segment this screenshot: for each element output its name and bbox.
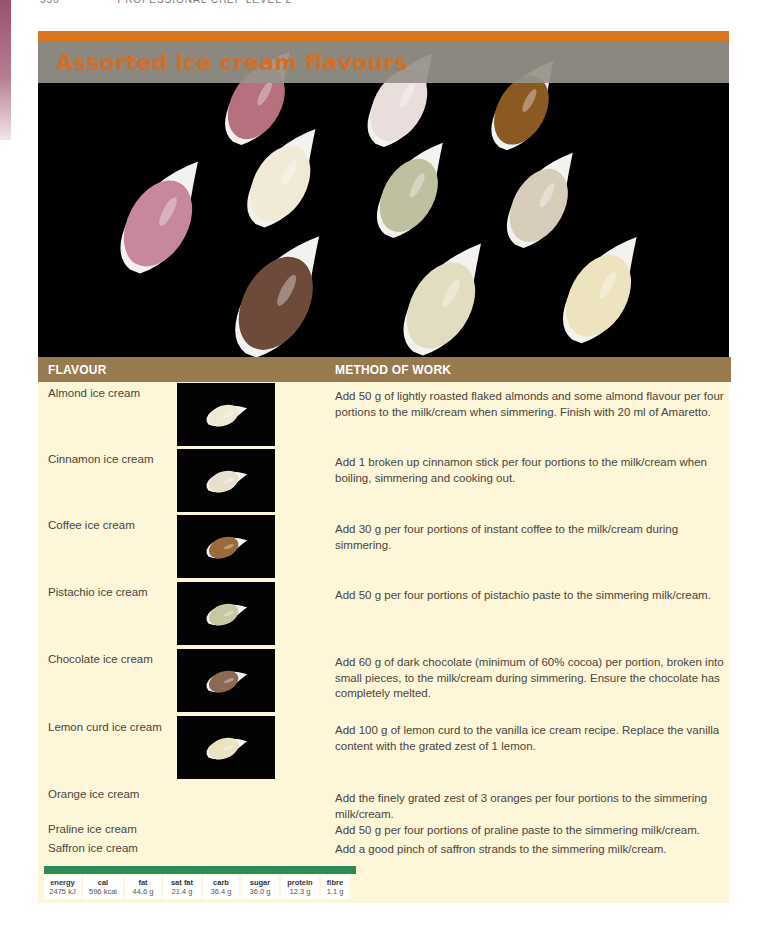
flavour-label: Lemon curd ice cream bbox=[48, 721, 162, 733]
recipe-panel: Assorted ice cream flavours bbox=[38, 31, 729, 903]
thumbnail-scoop bbox=[207, 661, 243, 705]
flavour-thumbnail bbox=[177, 515, 275, 578]
flavour-label: Chocolate ice cream bbox=[48, 653, 153, 665]
method-text: Add the finely grated zest of 3 oranges … bbox=[335, 791, 730, 822]
method-text: Add 60 g of dark chocolate (minimum of 6… bbox=[335, 655, 730, 702]
nutrition-fibre: fibre1.1 g bbox=[321, 876, 349, 899]
flavour-label: Coffee ice cream bbox=[48, 519, 135, 531]
nutrition-panel: energy2475 kJ cal596 kcal fat44.6 g sat … bbox=[44, 866, 356, 899]
nutrition-cal: cal596 kcal bbox=[83, 876, 123, 899]
flavour-thumbnail bbox=[177, 716, 275, 779]
method-text: Add 50 g per four portions of praline pa… bbox=[335, 823, 730, 839]
running-head: 556 PROFESSIONAL CHEF LEVEL 2 bbox=[40, 0, 292, 5]
method-text: Add 100 g of lemon curd to the vanilla i… bbox=[335, 723, 730, 754]
header-flavour: FLAVOUR bbox=[48, 363, 107, 377]
ice-cream-scoop bbox=[553, 227, 648, 357]
nutrition-sat-fat: sat fat21.4 g bbox=[163, 876, 201, 899]
thumbnail-scoop bbox=[207, 594, 243, 638]
accent-band bbox=[38, 31, 729, 42]
header-method: METHOD OF WORK bbox=[335, 363, 451, 377]
flavour-thumbnail bbox=[177, 383, 275, 446]
nutrition-carb: carb36.4 g bbox=[203, 876, 239, 899]
nutrition-energy: energy2475 kJ bbox=[44, 876, 81, 899]
method-text: Add 1 broken up cinnamon stick per four … bbox=[335, 455, 730, 486]
thumbnail-scoop bbox=[207, 395, 243, 439]
ice-cream-scoop bbox=[223, 234, 333, 357]
nutrition-fat: fat44.6 g bbox=[125, 876, 161, 899]
thumbnail-scoop bbox=[207, 461, 243, 505]
ice-cream-scoop bbox=[238, 120, 326, 240]
method-text: Add 30 g per four portions of instant co… bbox=[335, 522, 730, 553]
nutrition-bar bbox=[44, 866, 356, 874]
flavour-label: Pistachio ice cream bbox=[48, 586, 148, 598]
flavour-label: Orange ice cream bbox=[48, 788, 139, 800]
book-title: PROFESSIONAL CHEF LEVEL 2 bbox=[117, 0, 291, 5]
page-number: 556 bbox=[40, 0, 60, 5]
method-text: Add 50 g of lightly roasted flaked almon… bbox=[335, 389, 730, 420]
ice-cream-scoop bbox=[110, 157, 210, 282]
ice-cream-scoop bbox=[393, 234, 493, 357]
nutrition-sugar: sugar36.0 g bbox=[241, 876, 279, 899]
recipe-title: Assorted ice cream flavours bbox=[56, 50, 408, 75]
flavour-thumbnail bbox=[177, 449, 275, 512]
hero-photo: Assorted ice cream flavours bbox=[38, 42, 729, 357]
page-edge-color-tab bbox=[0, 0, 11, 140]
flavour-thumbnail bbox=[177, 582, 275, 645]
flavour-label: Praline ice cream bbox=[48, 823, 137, 835]
flavour-label: Almond ice cream bbox=[48, 387, 140, 399]
table-header: FLAVOUR METHOD OF WORK bbox=[38, 357, 731, 382]
method-text: Add a good pinch of saffron strands to t… bbox=[335, 842, 730, 858]
method-text: Add 50 g per four portions of pistachio … bbox=[335, 588, 730, 604]
thumbnail-scoop bbox=[207, 728, 243, 772]
flavour-label: Saffron ice cream bbox=[48, 842, 138, 854]
thumbnail-scoop bbox=[207, 527, 243, 571]
flavour-thumbnail bbox=[177, 649, 275, 712]
flavour-label: Cinnamon ice cream bbox=[48, 453, 153, 465]
nutrition-protein: protein12.3 g bbox=[281, 876, 319, 899]
